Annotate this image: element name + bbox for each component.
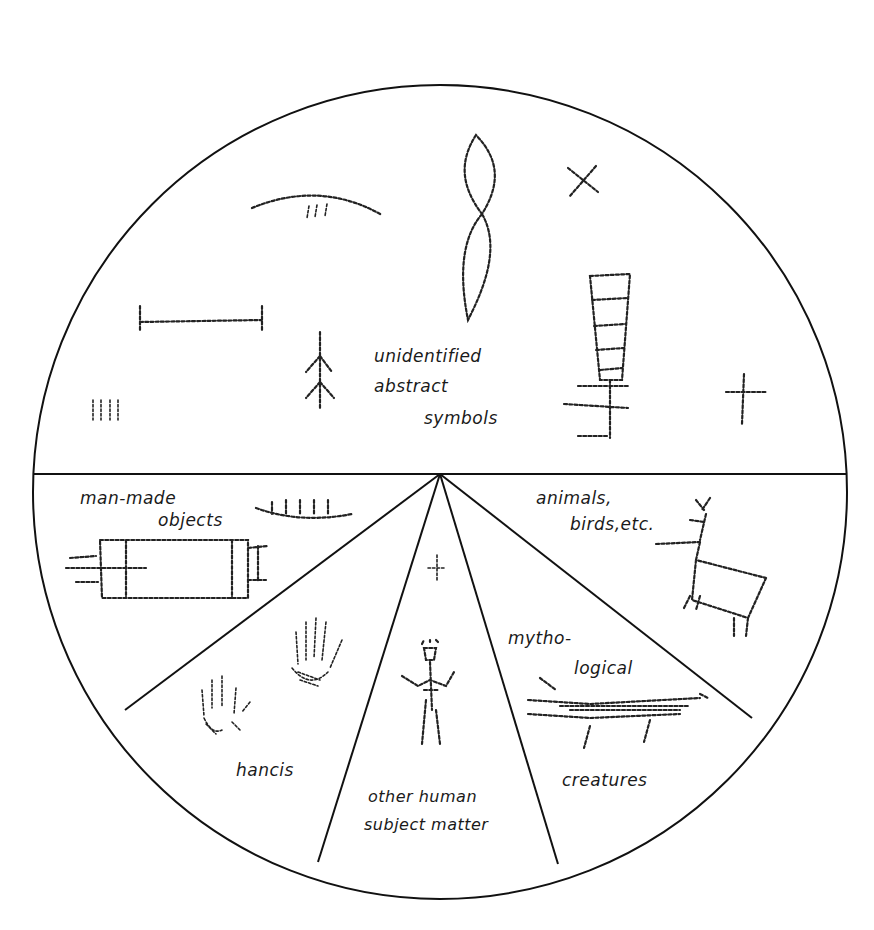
label-objects-2: objects [158, 510, 223, 530]
x-mark-sketch [568, 166, 598, 196]
deer-sketch [656, 498, 766, 636]
label-myth-2: logical [574, 658, 633, 678]
section-animals: animals, birds,etc. [536, 488, 766, 636]
double-lozenge-sketch [463, 135, 495, 320]
handprint-upper-sketch [292, 618, 342, 686]
rock-art-categories-diagram: unidentified abstract symbols man-made o… [0, 0, 874, 930]
label-animals-1: animals, [536, 488, 612, 508]
creature-sketch [528, 678, 708, 748]
section-human: other human subject matter [364, 555, 489, 834]
small-cross-sketch [726, 374, 766, 424]
section-objects: man-made objects [66, 488, 352, 598]
section-mythological: mytho- logical creatures [508, 628, 708, 790]
branch-figure-sketch [306, 332, 334, 410]
boat-sketch [256, 500, 352, 518]
label-abstract-1: unidentified [374, 346, 482, 366]
rect-object-sketch [66, 540, 268, 598]
label-hands: hancis [236, 760, 294, 780]
bar-sketch [140, 306, 262, 332]
label-abstract-3: symbols [424, 408, 498, 428]
section-abstract: unidentified abstract symbols [93, 135, 766, 438]
label-abstract-2: abstract [374, 376, 449, 396]
label-objects-1: man-made [80, 488, 176, 508]
label-human-1: other human [368, 787, 477, 806]
small-figure-sketch [428, 555, 446, 582]
divider-myth-animals [440, 474, 752, 718]
human-figure-sketch [402, 640, 454, 744]
label-human-2: subject matter [364, 815, 489, 834]
section-hands: hancis [202, 618, 342, 780]
handprint-lower-sketch [202, 676, 250, 734]
label-myth-3: creatures [562, 770, 647, 790]
three-marks-sketch [307, 204, 327, 218]
label-animals-2: birds,etc. [570, 514, 654, 534]
ladder-cross-sketch [564, 274, 630, 438]
label-myth-1: mytho- [508, 628, 572, 648]
four-strokes-sketch [93, 400, 118, 420]
